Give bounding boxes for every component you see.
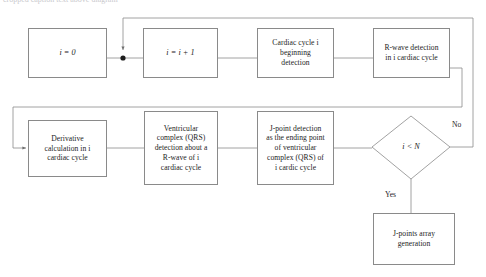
flowchart-figure: cropped caption text above diagram — [0, 0, 486, 277]
node-rwave-detection-label: R-wave detection in i cardiac cycle — [384, 43, 438, 62]
branch-label-yes-text: Yes — [385, 190, 396, 199]
node-cardiac-cycle-beginning-label: Cardiac cycle i beginning detection — [272, 38, 318, 67]
node-derivative-calculation-label: Derivative calculation in i cardiac cycl… — [45, 134, 91, 163]
node-qrs-detection: Ventricular complex (QRS) detection abou… — [144, 111, 218, 185]
node-derivative-calculation: Derivative calculation in i cardiac cycl… — [28, 120, 107, 177]
node-jpoint-detection-label: J-point detection as the ending point of… — [266, 124, 325, 173]
node-increment: i = i + 1 — [143, 28, 218, 78]
decision-label: i < N — [372, 142, 450, 151]
node-init-label: i = 0 — [59, 48, 75, 59]
node-increment-label: i = i + 1 — [166, 48, 194, 59]
decision-label-text: i < N — [402, 142, 419, 151]
node-jpoints-array-generation: J-points array generation — [373, 213, 455, 265]
branch-label-no-text: No — [452, 120, 461, 129]
node-cardiac-cycle-beginning: Cardiac cycle i beginning detection — [257, 28, 334, 78]
branch-label-no: No — [452, 120, 461, 129]
node-rwave-detection: R-wave detection in i cardiac cycle — [373, 28, 450, 78]
node-jpoint-detection: J-point detection as the ending point of… — [257, 111, 334, 185]
node-init: i = 0 — [28, 28, 107, 78]
branch-label-yes: Yes — [385, 190, 396, 199]
node-qrs-detection-label: Ventricular complex (QRS) detection abou… — [155, 124, 208, 173]
node-jpoints-array-generation-label: J-points array generation — [393, 229, 435, 248]
